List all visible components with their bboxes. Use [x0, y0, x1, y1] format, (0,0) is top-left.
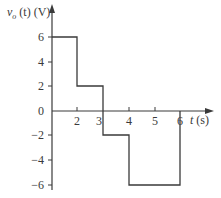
x-tick-label: 4: [126, 114, 132, 128]
x-tick-label: 5: [152, 114, 158, 128]
step-function-chart: 6 4 2 0 −2 −4 −6 vo (t) (V) 2 3 4 5 6: [0, 0, 221, 198]
y-tick-label: 0: [38, 104, 44, 118]
y-tick-label: 6: [38, 30, 44, 44]
y-tick-label: −6: [31, 178, 44, 192]
y-tick-label: 2: [38, 79, 44, 93]
x-axis-label: t (s): [190, 113, 209, 127]
y-tick-label: 4: [38, 55, 44, 69]
y-axis: 6 4 2 0 −2 −4 −6: [31, 4, 55, 192]
y-tick-label: −4: [31, 153, 44, 167]
x-tick-label: 2: [74, 114, 80, 128]
y-tick-label: −2: [31, 128, 44, 142]
x-tick-label: 3: [96, 114, 102, 128]
y-axis-label: vo (t) (V): [7, 5, 50, 21]
